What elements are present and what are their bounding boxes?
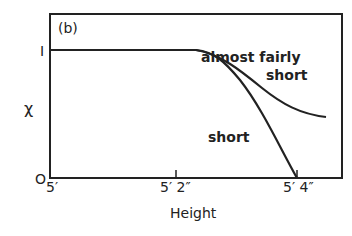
y-axis-label: χ: [24, 102, 33, 116]
x-tick-5: 5′: [46, 180, 58, 194]
y-tick-1: I: [40, 44, 44, 58]
x-tick-5-2-label: 5′ 2″: [160, 180, 191, 194]
panel-label: (b): [58, 21, 78, 35]
almost-fairly-short-label-1: almost fairly: [201, 50, 301, 64]
x-axis-label: Height: [170, 206, 216, 220]
chart-plot: [0, 0, 352, 236]
y-tick-0: O: [35, 172, 46, 186]
short-curve: [50, 50, 297, 178]
almost-fairly-short-label-2: short: [266, 68, 308, 82]
plot-frame: [50, 14, 342, 178]
short-label: short: [208, 130, 250, 144]
x-tick-5-4-label: 5′ 4″: [283, 180, 314, 194]
